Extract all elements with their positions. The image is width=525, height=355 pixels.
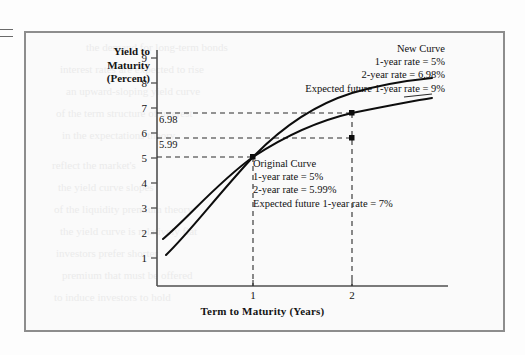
- original-curve-annotation-line-2: 2-year rate = 5.99%: [253, 183, 393, 196]
- y-tick-label-2: 2: [131, 227, 147, 239]
- y-axis-ticks: [151, 58, 157, 258]
- x-tick-label-1: 1: [245, 289, 261, 301]
- y-tick-label-8: 8: [131, 77, 147, 89]
- original-curve-annotation: Original Curve 1-year rate = 5% 2-year r…: [253, 157, 393, 210]
- x-axis-ticks: [253, 280, 352, 286]
- y-tick-label-1: 1: [131, 252, 147, 264]
- y-tick-label-9: 9: [131, 52, 147, 64]
- marker-new-curve-2yr: [349, 110, 355, 116]
- y-tick-label-7: 7: [131, 102, 147, 114]
- new-curve-annotation-line-3: Expected future 1-year rate = 9%: [205, 82, 445, 95]
- original-curve-annotation-title: Original Curve: [253, 157, 393, 170]
- value-label-599: 5.99: [159, 139, 177, 150]
- y-tick-label-6: 6: [131, 127, 147, 139]
- x-axis-title: Term to Maturity (Years): [0, 305, 525, 317]
- marker-original-curve-2yr: [349, 135, 355, 141]
- value-label-698: 6.98: [159, 114, 177, 125]
- original-curve-annotation-line-1: 1-year rate = 5%: [253, 170, 393, 183]
- y-tick-label-4: 4: [131, 177, 147, 189]
- original-curve-annotation-line-3: Expected future 1-year rate = 7%: [253, 197, 393, 210]
- y-tick-label-5: 5: [131, 152, 147, 164]
- x-tick-label-2: 2: [344, 289, 360, 301]
- new-curve-annotation-line-2: 2-year rate = 6.98%: [205, 68, 445, 81]
- new-curve-annotation: New Curve 1-year rate = 5% 2-year rate =…: [205, 42, 445, 95]
- new-curve-annotation-title: New Curve: [205, 42, 445, 55]
- page-background: the demand for long-term bonds interest …: [0, 0, 525, 355]
- y-tick-label-3: 3: [131, 202, 147, 214]
- new-curve-annotation-line-1: 1-year rate = 5%: [205, 55, 445, 68]
